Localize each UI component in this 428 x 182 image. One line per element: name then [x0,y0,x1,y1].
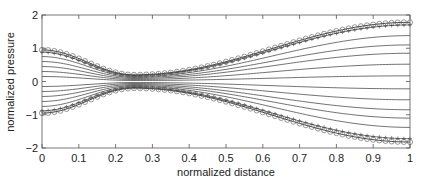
x-tick-label: 0.9 [366,152,381,164]
plus-marker [353,28,357,32]
plus-marker [365,26,369,30]
plus-marker [46,50,50,54]
plus-marker [52,51,56,55]
y-axis: −2−1012 [25,9,410,154]
x-tick-label: 0.2 [108,152,123,164]
plot-markers [39,20,412,145]
plot-frame [42,15,410,148]
series-line [42,36,410,77]
plus-marker [359,27,363,31]
x-tick-label: 0.7 [292,152,307,164]
y-axis-label: normalized pressure [4,32,16,132]
plus-marker [353,132,357,136]
plus-marker [347,131,351,135]
pressure-chart: 00.10.20.30.40.50.60.70.80.91 −2−1012 no… [0,0,428,182]
plus-marker [371,25,375,29]
plus-marker [371,134,375,138]
x-tick-label: 0.3 [145,152,160,164]
x-tick-label: 0.6 [255,152,270,164]
series-line [42,86,410,127]
plus-marker [377,25,381,29]
y-tick-label: −1 [25,109,38,121]
y-tick-label: 0 [32,76,38,88]
plus-marker [89,63,93,67]
x-tick-label: 0.4 [182,152,197,164]
plus-marker [328,33,332,37]
plot-lines [42,22,410,142]
plus-marker [334,31,338,35]
x-tick-label: 1 [407,152,413,164]
plus-marker [396,23,400,27]
x-tick-label: 0.5 [218,152,233,164]
plus-marker [402,23,406,27]
x-tick-label: 0 [39,152,45,164]
y-tick-label: −2 [25,142,38,154]
plus-marker [341,130,345,134]
plus-marker [341,30,345,34]
x-axis: 00.10.20.30.40.50.60.70.80.91 [39,15,413,164]
plus-marker [347,29,351,33]
plus-marker [365,134,369,138]
plus-marker [359,133,363,137]
x-axis-label: normalized distance [177,166,275,178]
x-tick-label: 0.8 [329,152,344,164]
plus-marker [322,34,326,38]
y-tick-label: 2 [32,9,38,21]
plus-marker [383,24,387,28]
y-tick-label: 1 [32,42,38,54]
plus-marker [390,24,394,28]
x-tick-label: 0.1 [71,152,86,164]
